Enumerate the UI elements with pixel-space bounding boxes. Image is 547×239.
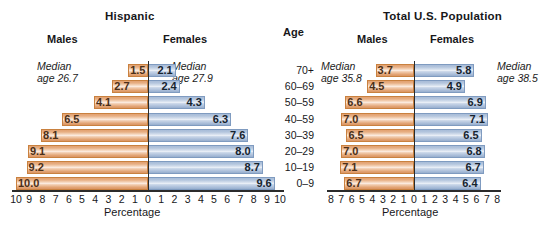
x-tick-label: 7 <box>233 193 247 205</box>
value-label-male-60–69: 2.7 <box>114 80 146 93</box>
value-label-female-20–29: 6.8 <box>414 145 482 158</box>
value-label-male-20–29: 9.1 <box>30 145 146 158</box>
age-group-label-30–39: 30–39 <box>258 129 314 142</box>
x-tick-label: 5 <box>75 193 89 205</box>
value-label-female-70+: 5.8 <box>414 64 471 77</box>
x-tick-label: 7 <box>49 193 63 205</box>
axis-title-percentage-hispanic: Percentage <box>104 206 160 218</box>
median-label-line1: Median <box>321 60 362 72</box>
x-tick-label: 10 <box>273 193 287 205</box>
median-label-line2: age 38.5 <box>497 72 538 84</box>
median-annotation-female-total-us: Median age 38.5 <box>497 60 538 84</box>
value-label-female-20–29: 8.0 <box>148 145 251 158</box>
value-label-male-0–9: 6.7 <box>346 177 412 190</box>
x-tick-label: 9 <box>22 193 36 205</box>
x-tick-label: 3 <box>101 193 115 205</box>
x-tick-label: 4 <box>88 193 102 205</box>
value-label-female-60–69: 2.4 <box>148 80 177 93</box>
axis-title-percentage-total-us: Percentage <box>382 206 438 218</box>
age-group-label-20–29: 20–29 <box>258 145 314 158</box>
age-column-header: Age <box>283 26 304 38</box>
value-label-male-70+: 3.7 <box>378 64 412 77</box>
value-label-female-30–39: 7.6 <box>148 129 245 142</box>
value-label-female-40–59: 6.3 <box>148 113 228 126</box>
value-label-male-30–39: 8.1 <box>43 129 146 142</box>
x-tick-label: 3 <box>181 193 195 205</box>
value-label-male-10–19: 9.2 <box>29 161 146 174</box>
chart-title-hispanic: Hispanic <box>105 10 155 22</box>
x-axis-line <box>327 190 501 191</box>
x-tick-label: 6 <box>220 193 234 205</box>
x-tick-label: 8 <box>247 193 261 205</box>
age-group-label-50–59: 50–59 <box>258 96 314 109</box>
value-label-female-70+: 2.1 <box>148 64 173 77</box>
value-label-female-50–59: 4.3 <box>148 96 202 109</box>
median-annotation-male-hispanic: Median age 26.7 <box>37 60 78 84</box>
value-label-male-10–19: 7.1 <box>342 161 412 174</box>
x-tick-label: 4 <box>194 193 208 205</box>
x-tick-label: 0 <box>141 193 155 205</box>
median-label-line1: Median <box>37 60 78 72</box>
value-label-female-0–9: 6.4 <box>414 177 478 190</box>
x-tick-label: 1 <box>128 193 142 205</box>
header-males-total-us: Males <box>357 33 388 45</box>
x-tick-label: 6 <box>62 193 76 205</box>
y-axis-centre-line <box>414 61 415 190</box>
value-label-female-40–59: 7.1 <box>414 113 485 126</box>
value-label-male-40–59: 6.5 <box>64 113 146 126</box>
header-females-hispanic: Females <box>163 33 207 45</box>
value-label-male-50–59: 4.1 <box>96 96 146 109</box>
header-females-total-us: Females <box>430 33 474 45</box>
value-label-male-50–59: 6.6 <box>347 96 412 109</box>
value-label-female-10–19: 8.7 <box>148 161 260 174</box>
age-group-label-0–9: 0–9 <box>258 177 314 190</box>
x-tick-label: 2 <box>115 193 129 205</box>
age-group-label-40–59: 40–59 <box>258 113 314 126</box>
header-males-hispanic: Males <box>47 33 78 45</box>
value-label-male-60–69: 4.5 <box>369 80 412 93</box>
chart-title-total-us: Total U.S. Population <box>383 10 502 22</box>
y-axis-centre-line <box>148 61 149 190</box>
value-label-male-20–29: 7.0 <box>343 145 412 158</box>
value-label-male-30–39: 6.5 <box>348 129 412 142</box>
value-label-female-30–39: 6.5 <box>414 129 479 142</box>
median-label-line2: age 35.8 <box>321 72 362 84</box>
value-label-female-10–19: 6.7 <box>414 161 481 174</box>
x-tick-label: 9 <box>260 193 274 205</box>
value-label-male-40–59: 7.0 <box>343 113 412 126</box>
value-label-male-0–9: 10.0 <box>18 177 146 190</box>
x-tick-label: 8 <box>35 193 49 205</box>
age-group-label-10–19: 10–19 <box>258 161 314 174</box>
x-tick-label: 2 <box>167 193 181 205</box>
age-group-label-70+: 70+ <box>258 64 314 77</box>
median-label-line1: Median <box>172 60 213 72</box>
median-label-line1: Median <box>497 60 538 72</box>
value-label-female-50–59: 6.9 <box>414 96 483 109</box>
value-label-female-0–9: 9.6 <box>148 177 272 190</box>
median-annotation-male-total-us: Median age 35.8 <box>321 60 362 84</box>
x-tick-label: 5 <box>207 193 221 205</box>
population-pyramid-figure: Hispanic Males Females Median age 26.7 M… <box>0 0 547 239</box>
x-axis-line <box>12 190 284 191</box>
x-tick-label: 1 <box>154 193 168 205</box>
age-group-label-60–69: 60–69 <box>258 80 314 93</box>
x-tick-label: 10 <box>9 193 23 205</box>
x-tick-label: 8 <box>490 193 504 205</box>
value-label-female-60–69: 4.9 <box>414 80 462 93</box>
median-label-line2: age 26.7 <box>37 72 78 84</box>
